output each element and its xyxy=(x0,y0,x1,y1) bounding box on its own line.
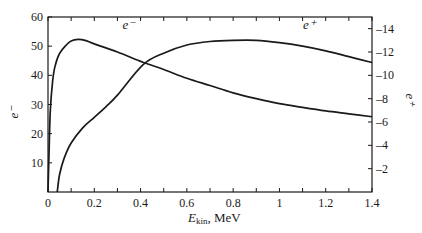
y-right-tick-label: –6 xyxy=(375,115,388,129)
x-axis-title-main: E xyxy=(187,210,196,225)
x-axis-ticks: 00.20.40.60.811.21.4 xyxy=(45,17,380,210)
y-left-tick-label: 60 xyxy=(31,10,43,24)
plot-frame xyxy=(48,17,372,192)
chart: 00.20.40.60.811.21.4 102030405060 –2–4–6… xyxy=(0,0,422,233)
y-left-tick-label: 30 xyxy=(31,98,43,112)
x-axis-title: Ekin, MeV xyxy=(187,210,241,226)
curves xyxy=(48,39,372,192)
y-left-tick-label: 50 xyxy=(31,39,43,53)
y-axis-left-title: e⁻ xyxy=(6,105,21,119)
series-labels: e⁻e⁺ xyxy=(123,17,317,32)
y-right-tick-label: –10 xyxy=(375,68,394,82)
y-right-tick-label: –12 xyxy=(375,45,394,59)
y-left-tick-label: 20 xyxy=(31,127,43,141)
plot-area-border xyxy=(48,17,372,192)
curve-positron xyxy=(57,40,372,192)
x-tick-label: 0.2 xyxy=(87,196,102,210)
x-tick-label: 0.4 xyxy=(133,196,148,210)
x-axis-title-sub: kin xyxy=(196,216,208,226)
label-electron: e⁻ xyxy=(123,17,137,32)
x-tick-label: 1.2 xyxy=(318,196,333,210)
x-tick-label: 0 xyxy=(45,196,51,210)
x-tick-label: 0.8 xyxy=(226,196,241,210)
y-right-tick-label: –8 xyxy=(375,92,388,106)
x-axis-title-unit: , MeV xyxy=(207,210,241,225)
label-positron: e⁺ xyxy=(303,17,317,32)
y-right-tick-label: –2 xyxy=(375,162,388,176)
y-axis-right-title: e⁺ xyxy=(403,94,418,108)
y-left-tick-label: 40 xyxy=(31,68,43,82)
y-right-tick-label: –4 xyxy=(375,138,388,152)
y-right-tick-label: –14 xyxy=(375,22,394,36)
x-tick-label: 0.6 xyxy=(179,196,194,210)
x-tick-label: 1 xyxy=(276,196,282,210)
y-left-tick-label: 10 xyxy=(31,156,43,170)
x-tick-label: 1.4 xyxy=(365,196,380,210)
